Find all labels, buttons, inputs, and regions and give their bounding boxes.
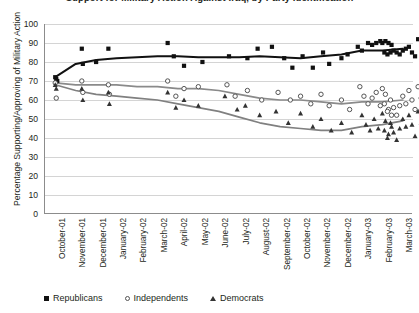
data-point: [383, 92, 387, 96]
data-point: [196, 103, 201, 108]
data-point: [311, 66, 315, 70]
chart-container: Support for Military Action Against Iraq…: [0, 0, 419, 313]
data-point: [260, 98, 264, 102]
data-point: [222, 94, 227, 99]
legend-item-republicans[interactable]: Republicans: [44, 293, 103, 303]
data-point: [385, 109, 389, 113]
open-circle-icon: [125, 296, 130, 301]
data-point: [374, 41, 378, 45]
x-tick-label: March-03: [405, 218, 414, 253]
data-point: [391, 130, 396, 135]
legend-label: Democrats: [220, 293, 264, 303]
data-point: [173, 105, 178, 110]
data-point: [347, 107, 351, 111]
data-point: [360, 49, 364, 53]
data-point: [256, 47, 260, 51]
x-tick-label: December-02: [344, 218, 353, 268]
data-point: [286, 120, 291, 125]
x-tick-label: May-02: [201, 218, 210, 245]
data-point: [394, 113, 398, 117]
legend-item-democrats[interactable]: Democrats: [210, 293, 264, 303]
data-point: [339, 98, 343, 102]
x-tick-label: September-02: [283, 218, 292, 270]
plot-area: [44, 24, 412, 214]
data-point: [106, 83, 110, 87]
data-point: [380, 86, 384, 90]
x-tick-label: January-02: [119, 218, 128, 259]
x-tick-label: June-02: [221, 218, 230, 248]
legend-item-independents[interactable]: Independents: [125, 293, 189, 303]
data-point: [233, 94, 237, 98]
data-point: [225, 83, 229, 87]
data-point: [182, 86, 186, 90]
legend-label: Independents: [134, 293, 189, 303]
x-tick-label: January-03: [364, 218, 373, 259]
data-point: [290, 66, 294, 70]
data-point: [94, 60, 98, 64]
series-republicans: [53, 37, 419, 83]
series-independents: [53, 79, 419, 118]
data-point: [166, 41, 170, 45]
y-tick-label: 50: [8, 115, 38, 124]
data-point: [319, 116, 324, 121]
data-point: [407, 45, 411, 49]
x-tick-label: July-02: [242, 218, 251, 244]
y-tick-label: 80: [8, 58, 38, 67]
data-point: [406, 113, 411, 118]
data-point: [282, 56, 286, 60]
y-tick-label: 30: [8, 153, 38, 162]
data-point: [413, 107, 417, 111]
data-point: [382, 128, 387, 133]
data-point: [363, 122, 368, 127]
data-point: [359, 113, 364, 118]
data-point: [301, 54, 305, 58]
data-point: [54, 96, 58, 100]
x-tick-label: December-01: [99, 218, 108, 268]
data-point: [200, 60, 204, 64]
data-point: [270, 45, 274, 49]
series-democrats: [53, 82, 419, 142]
filled-triangle-icon: [210, 296, 216, 301]
data-point: [366, 41, 370, 45]
data-point: [413, 54, 417, 58]
y-tick-label: 100: [8, 20, 38, 29]
data-point: [274, 109, 279, 114]
data-point: [376, 126, 381, 131]
data-point: [81, 90, 85, 94]
x-tick-label: November-02: [323, 218, 332, 268]
data-point: [358, 85, 362, 89]
data-point: [174, 94, 178, 98]
data-point: [382, 102, 386, 106]
data-point: [362, 94, 366, 98]
data-point: [319, 92, 323, 96]
data-point: [401, 94, 405, 98]
data-point: [370, 43, 374, 47]
x-tick-label: August-02: [262, 218, 271, 255]
data-point: [245, 88, 249, 92]
data-point: [107, 101, 112, 106]
data-point: [394, 137, 399, 142]
y-tick-label: 10: [8, 191, 38, 200]
gridline: [45, 214, 413, 215]
y-tick-label: 0: [8, 210, 38, 219]
data-point: [235, 107, 240, 112]
chart-title: Support for Military Action Against Iraq…: [0, 0, 419, 4]
data-point: [165, 79, 169, 83]
data-point: [398, 104, 402, 108]
data-point: [327, 62, 331, 66]
data-point: [409, 122, 414, 127]
data-point: [383, 118, 388, 123]
data-point: [410, 50, 414, 54]
x-tick-label: April-02: [180, 218, 189, 246]
data-point: [288, 98, 292, 102]
trend-line-republicans: [55, 49, 403, 77]
data-point: [182, 64, 186, 68]
data-point: [298, 94, 302, 98]
data-point: [227, 54, 231, 58]
data-point: [356, 45, 360, 49]
data-point: [345, 52, 349, 56]
y-tick-label: 90: [8, 39, 38, 48]
x-tick-label: November-01: [78, 218, 87, 268]
data-point: [403, 124, 408, 129]
data-point: [80, 97, 85, 102]
